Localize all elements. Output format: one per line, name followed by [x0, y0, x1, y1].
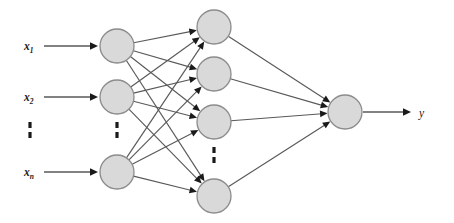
edge-input-node-3-to-hidden-node-2 — [129, 90, 198, 160]
edge-hidden-node-2-to-output-node-1 — [230, 79, 323, 106]
edge-input-node-3-to-hidden-node-1-arrowhead — [197, 42, 204, 50]
hidden-layer-ellipsis-dot-1 — [212, 147, 215, 153]
edge-input-node-2-to-hidden-node-3-arrowhead — [189, 112, 197, 119]
edge-input-node-1-to-hidden-node-3-arrowhead — [192, 104, 200, 111]
edge-input-node-1-to-hidden-node-1-arrowhead — [189, 28, 197, 35]
input-arrow-3-arrowhead — [90, 168, 98, 176]
hidden-layer-ellipsis-dot-2 — [212, 157, 215, 163]
edge-input-node-2-to-hidden-node-1-arrowhead — [192, 37, 200, 44]
edge-input-node-1-to-hidden-node-1 — [134, 31, 192, 42]
edge-hidden-node-1-to-output-node-1 — [228, 36, 325, 99]
hidden-node-1 — [197, 10, 231, 44]
output-node-1 — [328, 95, 362, 129]
edge-hidden-node-3-to-output-node-1-arrowhead — [320, 111, 328, 118]
input-layer-ellipsis-dot-2 — [115, 132, 118, 138]
edge-hidden-node-4-to-output-node-1 — [228, 124, 325, 186]
output-arrow-arrowhead — [403, 108, 411, 116]
edge-hidden-node-4-to-output-node-1-arrowhead — [322, 121, 330, 128]
edge-input-node-2-to-hidden-node-2-arrowhead — [189, 76, 197, 83]
edges-input-to-hidden — [126, 28, 204, 193]
input-arrow-1-arrowhead — [90, 42, 98, 50]
edge-hidden-node-3-to-output-node-1 — [231, 114, 322, 121]
hidden-node-4 — [197, 179, 231, 213]
edge-input-node-3-to-hidden-node-4 — [134, 176, 192, 190]
edges-hidden-to-output — [228, 36, 330, 187]
edge-input-node-1-to-hidden-node-2-arrowhead — [189, 64, 197, 71]
neural-network-diagram: x1x2xny — [0, 0, 454, 223]
edge-input-node-2-to-hidden-node-4 — [129, 109, 198, 179]
input-node-2 — [100, 80, 134, 114]
hidden-node-3 — [197, 105, 231, 139]
nodes — [100, 10, 362, 213]
input-arrow-2-arrowhead — [90, 93, 98, 101]
input-label-ellipsis-dot-1 — [28, 122, 31, 128]
output-label: y — [418, 107, 425, 120]
edge-hidden-node-1-to-output-node-1-arrowhead — [322, 96, 330, 103]
input-node-3 — [100, 155, 134, 189]
edge-input-node-3-to-hidden-node-3 — [132, 133, 193, 165]
hidden-node-2 — [197, 57, 231, 91]
input-node-1 — [100, 29, 134, 63]
input-label-2: x2 — [23, 91, 34, 106]
input-label-3: xn — [23, 166, 34, 181]
edge-input-node-3-to-hidden-node-4-arrowhead — [189, 187, 197, 194]
edge-hidden-node-2-to-output-node-1-arrowhead — [320, 102, 328, 109]
neural-network-canvas: x1x2xny — [0, 0, 454, 223]
input-label-ellipsis-dot-2 — [28, 132, 31, 138]
input-label-1: x1 — [23, 40, 34, 55]
input-layer-ellipsis-dot-1 — [115, 122, 118, 128]
